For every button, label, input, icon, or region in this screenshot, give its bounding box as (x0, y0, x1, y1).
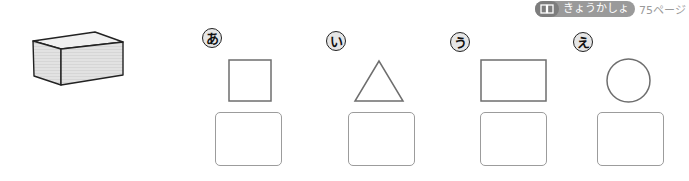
textbook-label: きょうかしょ (563, 1, 629, 17)
textbook-reference: きょうかしょ 75ページ (535, 1, 686, 17)
answer-box-a[interactable] (215, 112, 282, 166)
item-marker-a: あ (202, 28, 222, 48)
answer-box-u[interactable] (480, 112, 547, 166)
prism-end-face (33, 41, 61, 85)
prism-side-face (61, 42, 123, 85)
page-reference: 75ページ (639, 1, 686, 17)
rectangular-prism-figure (25, 25, 135, 95)
book-icon (535, 1, 559, 17)
textbook-badge: きょうかしょ (535, 1, 635, 17)
square-shape (227, 58, 273, 104)
answer-box-i[interactable] (348, 112, 415, 166)
rectangle-shape (479, 58, 549, 104)
item-marker-i: い (326, 31, 346, 51)
triangle-shape (352, 58, 406, 104)
item-marker-e: え (573, 32, 593, 52)
circle-shape (605, 57, 652, 104)
answer-box-e[interactable] (597, 112, 664, 166)
item-marker-u: う (450, 32, 470, 52)
